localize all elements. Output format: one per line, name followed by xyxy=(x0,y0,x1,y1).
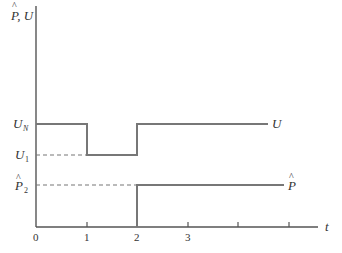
svg-text:P, U: P, U xyxy=(10,8,35,23)
series-u-line xyxy=(36,124,268,155)
u1-tick-label: U 1 xyxy=(15,147,29,164)
x-tick-label-0: 0 xyxy=(33,231,39,243)
x-tick-label-2: 2 xyxy=(134,231,140,243)
series-p-label: ^ P xyxy=(287,171,296,193)
series-p-line xyxy=(137,185,284,227)
y-axis-label: ^ P, U xyxy=(10,0,35,23)
svg-text:P: P xyxy=(14,178,23,193)
svg-text:N: N xyxy=(22,124,29,133)
un-tick-label: U N xyxy=(13,116,29,133)
series-u-label: U xyxy=(272,116,283,131)
svg-text:1: 1 xyxy=(25,155,29,164)
svg-text:2: 2 xyxy=(24,186,28,195)
p2-tick-label: ^ P 2 xyxy=(14,172,28,195)
svg-text:P: P xyxy=(287,178,296,193)
step-chart: ^ P, U U N U 1 ^ P 2 U ^ P 0 1 2 3 t xyxy=(0,0,342,253)
x-ticks xyxy=(87,222,289,227)
x-tick-label-3: 3 xyxy=(185,231,191,243)
x-axis-label: t xyxy=(325,219,329,234)
x-tick-label-1: 1 xyxy=(84,231,90,243)
